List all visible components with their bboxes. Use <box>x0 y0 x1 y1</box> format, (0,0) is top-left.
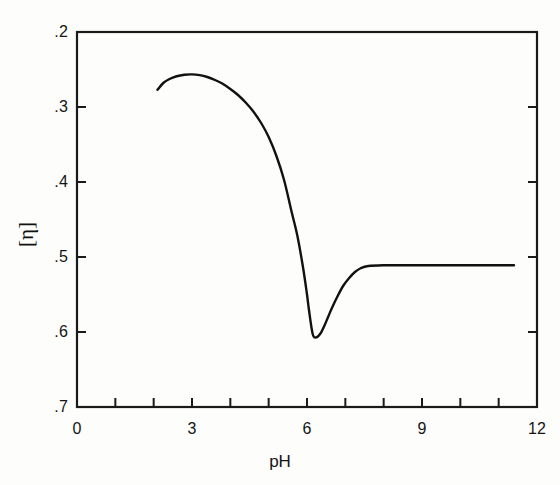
y-axis-title: [η] <box>14 222 39 247</box>
x-tick-label: 0 <box>72 420 81 438</box>
y-tick-label: .6 <box>34 323 68 341</box>
plot-canvas <box>0 0 560 485</box>
y-tick-label: .2 <box>34 23 68 41</box>
figure-background <box>0 0 560 485</box>
y-tick-label: .5 <box>34 248 68 266</box>
x-axis-title: pH <box>0 452 560 472</box>
y-tick-label: .7 <box>34 398 68 416</box>
x-tick-label: 9 <box>417 420 426 438</box>
y-tick-label: .3 <box>34 98 68 116</box>
x-tick-label: 6 <box>302 420 311 438</box>
x-tick-label: 12 <box>528 420 546 438</box>
x-tick-label: 3 <box>187 420 196 438</box>
chart-figure: .7.6.5.4.3.2 036912 [η] pH <box>0 0 560 485</box>
y-tick-label: .4 <box>34 173 68 191</box>
